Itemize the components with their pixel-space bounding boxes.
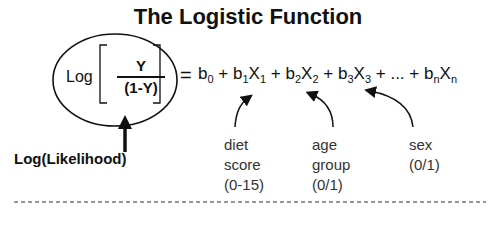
plus-sign: + <box>218 64 228 83</box>
equals-sign: = <box>180 64 192 87</box>
age-arrow <box>311 94 333 127</box>
sex-arrow <box>370 91 413 127</box>
plus-sign: + <box>323 64 333 83</box>
linear-predictor: b0 + b1X1 + b2X2 + b3X3 + ... + bnXn <box>198 64 457 85</box>
log-label: Log <box>66 68 93 86</box>
fraction-numerator: Y <box>115 57 167 75</box>
left-bracket <box>100 45 107 103</box>
log-likelihood-label: Log(Likelihood) <box>14 150 126 167</box>
term-b1x1: b1X1 <box>233 64 266 83</box>
term-b2x2: b2X2 <box>285 64 318 83</box>
odds-fraction: Y (1-Y) <box>115 57 167 97</box>
term-b3x3: b3X3 <box>338 64 371 83</box>
term-b0: b0 <box>198 64 214 83</box>
diet-arrow <box>235 98 248 127</box>
fraction-denominator: (1-Y) <box>115 79 167 97</box>
term-bnxn: bnXn <box>424 64 457 83</box>
plus-sign: + <box>409 64 419 83</box>
plus-sign: + <box>376 64 386 83</box>
diet-score-label: diet score (0-15) <box>224 135 264 195</box>
fraction-bar <box>117 76 165 78</box>
term-ellipsis: ... <box>390 64 404 83</box>
sex-label: sex (0/1) <box>409 135 440 175</box>
plus-sign: + <box>271 64 281 83</box>
age-group-label: age group (0/1) <box>312 135 350 195</box>
